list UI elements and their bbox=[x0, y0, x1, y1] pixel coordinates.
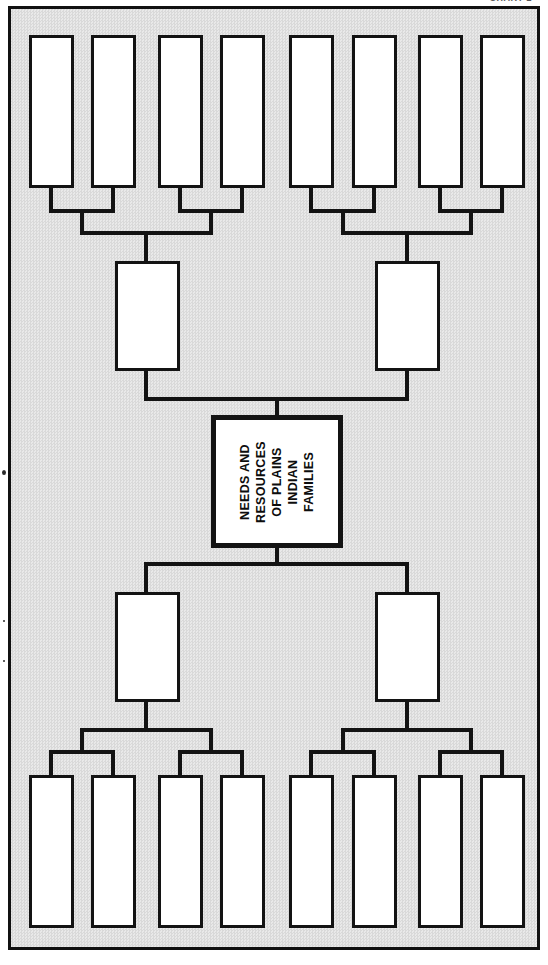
bottom-leaf-box-5[interactable] bbox=[289, 775, 334, 928]
center-node[interactable]: NEEDS AND RESOURCES OF PLAINS INDIAN FAM… bbox=[211, 415, 343, 548]
connector-bottom-leaf-8-rise bbox=[500, 750, 504, 778]
connector-bottom-left-split-bar bbox=[80, 728, 213, 732]
diagram-canvas: NEEDS AND RESOURCES OF PLAINS INDIAN FAM… bbox=[11, 9, 537, 947]
bottom-leaf-box-8[interactable] bbox=[480, 775, 525, 928]
bottom-leaf-box-2[interactable] bbox=[91, 775, 136, 928]
connector-top-spine-stem bbox=[275, 397, 279, 417]
connector-bottom-right-split-bar bbox=[341, 728, 473, 732]
bottom-leaf-box-7[interactable] bbox=[418, 775, 463, 928]
connector-bottom-leaf-7-rise bbox=[438, 750, 442, 778]
connector-bottom-pair-1-bar bbox=[49, 750, 115, 754]
connector-bottom-leaf-6-rise bbox=[372, 750, 376, 778]
bottom-leaf-box-6[interactable] bbox=[352, 775, 397, 928]
connector-bottom-mid-right-rise bbox=[405, 562, 409, 594]
top-leaf-box-3[interactable] bbox=[158, 35, 203, 188]
top-leaf-box-2[interactable] bbox=[91, 35, 136, 188]
connector-bottom-pair-2-bar bbox=[178, 750, 244, 754]
connector-bottom-leaf-4-rise bbox=[240, 750, 244, 778]
connector-bottom-mid-left-rise bbox=[144, 562, 148, 594]
top-leaf-box-8[interactable] bbox=[480, 35, 525, 188]
top-leaf-box-5[interactable] bbox=[289, 35, 334, 188]
diagram-frame: NEEDS AND RESOURCES OF PLAINS INDIAN FAM… bbox=[8, 6, 540, 950]
top-leaf-box-4[interactable] bbox=[220, 35, 265, 188]
top-mid-box-right[interactable] bbox=[375, 261, 440, 371]
scan-speck-3 bbox=[3, 660, 5, 662]
bottom-mid-box-right[interactable] bbox=[375, 592, 440, 702]
connector-bottom-pair-3-bar bbox=[309, 750, 376, 754]
connector-top-right-join-stem bbox=[405, 231, 409, 263]
top-leaf-box-6[interactable] bbox=[352, 35, 397, 188]
top-leaf-box-1[interactable] bbox=[29, 35, 74, 188]
diagram-page: CHART 2 bbox=[0, 0, 548, 965]
scan-speck-1 bbox=[2, 470, 6, 475]
connector-bottom-leaf-2-rise bbox=[111, 750, 115, 778]
bottom-leaf-box-3[interactable] bbox=[158, 775, 203, 928]
connector-top-left-join-stem bbox=[144, 231, 148, 263]
top-caption-fragment: CHART 2 bbox=[489, 0, 532, 1]
top-mid-box-left[interactable] bbox=[115, 261, 180, 371]
bottom-leaf-box-1[interactable] bbox=[29, 775, 74, 928]
bottom-leaf-box-4[interactable] bbox=[220, 775, 265, 928]
connector-bottom-leaf-3-rise bbox=[178, 750, 182, 778]
connector-bottom-leaf-5-rise bbox=[309, 750, 313, 778]
bottom-mid-box-left[interactable] bbox=[115, 592, 180, 702]
center-node-label: NEEDS AND RESOURCES OF PLAINS INDIAN FAM… bbox=[237, 441, 317, 523]
connector-bottom-pair-4-bar bbox=[438, 750, 504, 754]
scan-speck-2 bbox=[3, 620, 5, 622]
top-leaf-box-7[interactable] bbox=[418, 35, 463, 188]
connector-bottom-leaf-1-rise bbox=[49, 750, 53, 778]
connector-bottom-spine-bar bbox=[144, 562, 409, 566]
